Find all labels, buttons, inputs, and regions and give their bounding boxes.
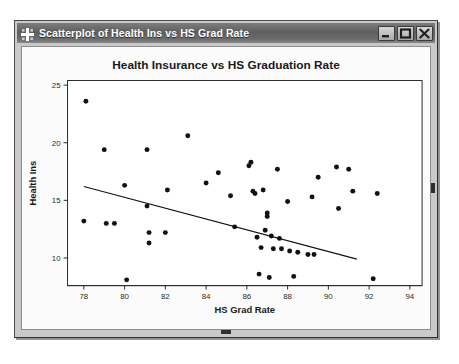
data-point — [147, 241, 152, 246]
y-axis-title: Health Ins — [28, 161, 38, 206]
data-point — [124, 277, 129, 282]
data-point — [291, 274, 296, 279]
data-point — [145, 204, 150, 209]
y-axis-ticks: 10152025 — [52, 81, 68, 263]
svg-text:86: 86 — [242, 292, 251, 301]
data-point — [248, 160, 253, 165]
data-point — [81, 219, 86, 224]
data-point — [265, 214, 270, 219]
data-point — [287, 249, 292, 254]
data-point — [346, 167, 351, 172]
svg-text:78: 78 — [79, 292, 88, 301]
svg-text:15: 15 — [52, 196, 61, 205]
data-point — [279, 246, 284, 251]
crosshair-grid-icon — [21, 27, 34, 40]
svg-text:88: 88 — [283, 292, 292, 301]
plot-client-area: Health Insurance vs HS Graduation Rate 7… — [21, 46, 431, 330]
data-point — [163, 230, 168, 235]
data-point — [336, 206, 341, 211]
data-point — [253, 191, 258, 196]
data-point — [267, 275, 272, 280]
data-point — [255, 235, 260, 240]
svg-text:84: 84 — [202, 292, 211, 301]
svg-text:92: 92 — [365, 292, 374, 301]
x-axis-ticks: 788082848688909294 — [68, 286, 423, 302]
data-point — [306, 252, 311, 257]
data-point — [271, 246, 276, 251]
svg-text:20: 20 — [52, 139, 61, 148]
chart-title: Health Insurance vs HS Graduation Rate — [112, 58, 340, 72]
svg-text:82: 82 — [161, 292, 170, 301]
data-point — [334, 164, 339, 169]
title-bar[interactable]: Scatterplot of Health Ins vs HS Grad Rat… — [17, 23, 435, 43]
data-point — [257, 272, 262, 277]
data-point — [185, 133, 190, 138]
data-point — [216, 170, 221, 175]
x-axis-title: HS Grad Rate — [215, 305, 276, 315]
data-point — [112, 221, 117, 226]
plot-area-frame — [68, 81, 423, 286]
data-point — [147, 230, 152, 235]
data-point — [204, 181, 209, 186]
svg-text:25: 25 — [52, 81, 61, 90]
data-point — [371, 276, 376, 281]
window-title: Scatterplot of Health Ins vs HS Grad Rat… — [39, 27, 376, 39]
data-point — [102, 147, 107, 152]
data-point — [312, 252, 317, 257]
close-button[interactable] — [416, 26, 433, 41]
data-point — [316, 175, 321, 180]
right-resize-handle[interactable] — [431, 183, 435, 193]
data-point — [285, 199, 290, 204]
data-point — [263, 228, 268, 233]
svg-text:10: 10 — [52, 254, 61, 263]
data-point — [261, 188, 266, 193]
maximize-button[interactable] — [397, 26, 414, 41]
data-point — [83, 99, 88, 104]
svg-text:94: 94 — [405, 292, 414, 301]
data-point — [375, 191, 380, 196]
data-point — [259, 245, 264, 250]
data-point — [122, 183, 127, 188]
data-point — [145, 147, 150, 152]
scatterplot: Health Insurance vs HS Graduation Rate 7… — [22, 47, 430, 329]
data-point — [275, 167, 280, 172]
plot-window: Scatterplot of Health Ins vs HS Grad Rat… — [14, 20, 438, 338]
svg-text:90: 90 — [324, 292, 333, 301]
data-point — [104, 221, 109, 226]
bottom-resize-handle[interactable] — [221, 330, 231, 334]
data-point — [165, 188, 170, 193]
minimize-button[interactable] — [378, 26, 395, 41]
svg-text:80: 80 — [120, 292, 129, 301]
data-point — [350, 189, 355, 194]
data-point — [295, 250, 300, 255]
data-point — [228, 193, 233, 198]
data-point — [310, 194, 315, 199]
